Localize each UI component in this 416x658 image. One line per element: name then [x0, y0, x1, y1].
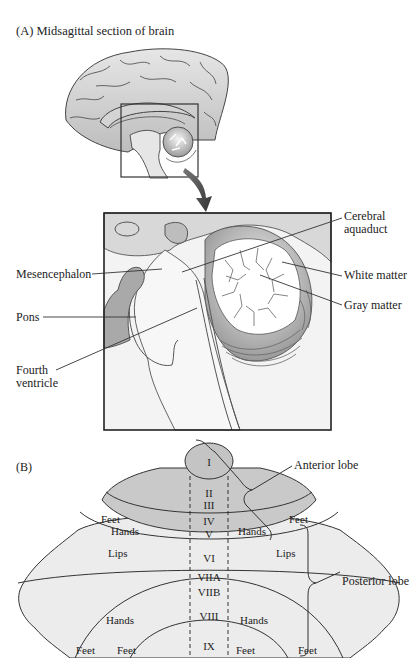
label-mesencephalon: Mesencephalon: [16, 268, 91, 281]
label-gray-matter: Gray matter: [344, 299, 402, 312]
lobule-I: I: [207, 456, 211, 468]
lobule-VIII: VIII: [200, 610, 219, 622]
label-cerebral-aquaduct: Cerebral aquaduct: [344, 210, 387, 236]
label-feet-lower-outer-right: Feet: [298, 644, 317, 656]
lobule-III: III: [204, 499, 215, 511]
label-anterior-lobe: Anterior lobe: [294, 459, 358, 472]
label-hands-lower-left: Hands: [106, 614, 134, 626]
label-feet-lower-outer-left: Feet: [76, 644, 95, 656]
panel-b-title: (B): [16, 460, 32, 475]
label-feet-upper-left: Feet: [101, 513, 120, 525]
label-hands-upper-right: Hands: [238, 525, 266, 537]
enlarged-view: [104, 213, 331, 430]
label-fourth-ventricle: Fourth ventricle: [16, 364, 58, 390]
cerebellum-flatmap: [18, 443, 400, 658]
label-hands-lower-right: Hands: [240, 614, 268, 626]
label-feet-upper-right: Feet: [289, 513, 308, 525]
lobule-VI: VI: [203, 552, 215, 564]
lobule-IV: IV: [203, 515, 215, 527]
lobule-IX: IX: [203, 640, 215, 652]
label-lips-right: Lips: [276, 547, 296, 559]
label-white-matter: White matter: [344, 269, 407, 282]
label-feet-lower-inner-left: Feet: [117, 644, 136, 656]
lobule-II: II: [205, 487, 213, 499]
lobule-VIIB: VIIB: [198, 586, 221, 598]
label-lips-left: Lips: [108, 547, 128, 559]
brain-illustration: I II III IV V VI VIIA VIIB VIII IX Feet …: [0, 0, 416, 658]
label-feet-lower-inner-right: Feet: [236, 644, 255, 656]
label-posterior-lobe: Posterior lobe: [342, 575, 409, 588]
label-pons: Pons: [16, 311, 39, 324]
lobule-V: V: [205, 528, 213, 540]
label-hands-upper-left: Hands: [111, 525, 139, 537]
lobule-VIIA: VIIA: [197, 571, 220, 583]
